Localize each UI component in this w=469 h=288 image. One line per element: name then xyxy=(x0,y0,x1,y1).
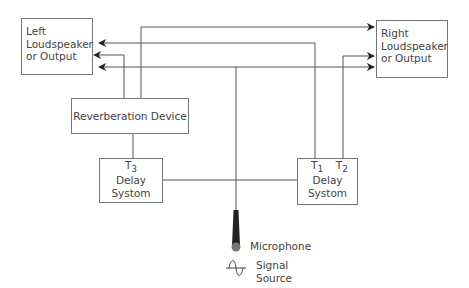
microphone-icon xyxy=(232,210,241,252)
wire-t2-to-right xyxy=(343,56,374,158)
left-loudspeaker-box: Left Loudspeaker or Output xyxy=(21,18,93,75)
wire-reverb-to-right xyxy=(141,27,374,98)
signal-source-label: Signal Source xyxy=(256,259,292,284)
reverberation-device-box: Reverberation Device xyxy=(71,98,189,134)
microphone-label: Microphone xyxy=(250,240,311,253)
tap-t3-label: T3 xyxy=(100,160,162,174)
wire-reverb-to-left xyxy=(94,55,124,98)
tap-t2-label: T2 xyxy=(336,160,348,174)
tap-t1-label: T1 xyxy=(311,160,323,174)
right-loudspeaker-box: Right Loudspeaker or Output xyxy=(376,20,448,78)
tap-t1-t2-labels: T1 T2 xyxy=(298,160,357,174)
delay-system-t1-t2-box: T1 T2 Delay Systom xyxy=(297,158,358,205)
delay-system-t3-box: T3 Delay Systom xyxy=(99,158,163,203)
sine-wave-icon xyxy=(226,261,246,276)
